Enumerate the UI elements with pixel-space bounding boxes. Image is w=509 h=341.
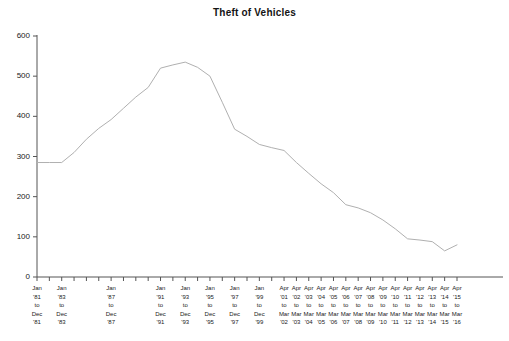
x-axis-label-line: '99 [248, 318, 270, 327]
x-axis-tick-label: Jan'81toDec'81 [26, 284, 48, 327]
x-axis-label-line: '91 [150, 293, 172, 302]
x-axis-label-line: '97 [224, 318, 246, 327]
x-axis-label-line: Dec [248, 310, 270, 319]
x-axis-label-line: Dec [199, 310, 221, 319]
x-axis-label-line: '81 [26, 293, 48, 302]
x-axis-label-line: to [26, 301, 48, 310]
x-axis-label-line: Jan [100, 284, 122, 293]
x-axis-label-line: to [248, 301, 270, 310]
x-axis-label-line: '15 [446, 293, 468, 302]
x-axis-label-line: '87 [100, 293, 122, 302]
x-axis-label-line: Jan [26, 284, 48, 293]
x-axis-label-line: Mar [446, 310, 468, 319]
x-axis-label-line: Jan [150, 284, 172, 293]
x-axis-tick-label: Jan'99toDec'99 [248, 284, 270, 327]
x-axis-label-line: Dec [26, 310, 48, 319]
x-axis-labels: Jan'81toDec'81Jan'83toDec'83Jan'87toDec'… [0, 0, 509, 341]
x-axis-label-line: Apr [446, 284, 468, 293]
x-axis-label-line: to [224, 301, 246, 310]
x-axis-label-line: Dec [224, 310, 246, 319]
x-axis-tick-label: Jan'83toDec'83 [51, 284, 73, 327]
x-axis-tick-label: Apr'15toMar'16 [446, 284, 468, 327]
x-axis-label-line: Dec [51, 310, 73, 319]
x-axis-label-line: '91 [150, 318, 172, 327]
x-axis-tick-label: Jan'95toDec'95 [199, 284, 221, 327]
x-axis-label-line: '16 [446, 318, 468, 327]
x-axis-label-line: '83 [51, 293, 73, 302]
x-axis-label-line: '97 [224, 293, 246, 302]
x-axis-label-line: '87 [100, 318, 122, 327]
x-axis-label-line: Jan [224, 284, 246, 293]
x-axis-tick-label: Jan'97toDec'97 [224, 284, 246, 327]
x-axis-label-line: to [100, 301, 122, 310]
x-axis-label-line: to [199, 301, 221, 310]
x-axis-label-line: to [150, 301, 172, 310]
x-axis-tick-label: Jan'93toDec'93 [174, 284, 196, 327]
x-axis-label-line: '81 [26, 318, 48, 327]
x-axis-label-line: '93 [174, 293, 196, 302]
x-axis-label-line: Jan [51, 284, 73, 293]
x-axis-label-line: '83 [51, 318, 73, 327]
x-axis-label-line: Dec [100, 310, 122, 319]
x-axis-label-line: '95 [199, 293, 221, 302]
x-axis-label-line: Jan [199, 284, 221, 293]
x-axis-label-line: '99 [248, 293, 270, 302]
x-axis-label-line: to [174, 301, 196, 310]
x-axis-tick-label: Jan'91toDec'91 [150, 284, 172, 327]
x-axis-label-line: Dec [174, 310, 196, 319]
x-axis-label-line: Jan [248, 284, 270, 293]
x-axis-label-line: to [446, 301, 468, 310]
chart-container: Theft of Vehicles 6005004003002001000 Ja… [0, 0, 509, 341]
x-axis-label-line: Dec [150, 310, 172, 319]
x-axis-label-line: Jan [174, 284, 196, 293]
x-axis-label-line: '93 [174, 318, 196, 327]
x-axis-tick-label: Jan'87toDec'87 [100, 284, 122, 327]
x-axis-label-line: '95 [199, 318, 221, 327]
x-axis-label-line: to [51, 301, 73, 310]
